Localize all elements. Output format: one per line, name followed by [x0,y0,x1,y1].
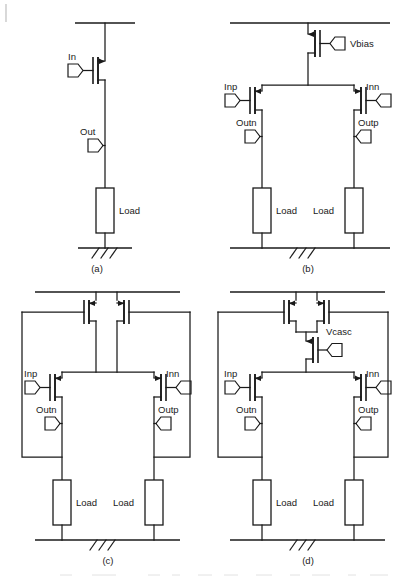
label-load-a: Load [119,205,140,216]
ground-hatch-3-a [110,248,117,258]
ground-hatch-3-c [108,540,115,550]
load-left-box-b [253,188,271,233]
panel-d-schematic: Vcasc Inp Inn Outn Outp [200,282,405,572]
load-left-box-c [53,480,71,525]
label-in-a: In [68,51,76,62]
label-out-a: Out [80,126,96,137]
ground-hatch-2-c [99,540,106,550]
pin-outn-d[interactable] [245,417,260,430]
label-load-right-d: Load [313,497,334,508]
label-inp-d: Inp [224,368,237,379]
pin-outn-b[interactable] [245,130,260,143]
pin-outn-c[interactable] [45,417,60,430]
caption-b: (b) [302,263,314,274]
pin-inp-b[interactable] [225,94,240,107]
label-load-left-c: Load [76,497,97,508]
label-outn-c: Outn [36,404,57,415]
ground-hatch-1-a [92,248,99,258]
scan-bottom-artifact [0,570,405,580]
ground-hatch-2-d [299,540,306,550]
pin-inp-c[interactable] [25,381,40,394]
panel-b-schematic: Vbias Inp Inn Outn [200,0,405,280]
label-outp-c: Outp [158,404,179,415]
pin-in-a[interactable] [68,64,83,77]
label-inn-b: Inn [366,81,379,92]
label-outp-b: Outp [358,117,379,128]
label-inp-b: Inp [224,81,237,92]
caption-a: (a) [91,263,103,274]
ground-hatch-2-b [299,248,306,258]
pin-inn-d[interactable] [376,381,391,394]
label-outn-b: Outn [236,117,257,128]
caption-d: (d) [302,555,314,566]
load-right-box-c [145,480,163,525]
label-load-right-b: Load [313,205,334,216]
pin-out-a[interactable] [88,139,103,152]
ground-hatch-3-d [308,540,315,550]
label-vbias-b: Vbias [350,38,374,49]
label-outn-d: Outn [236,404,257,415]
panel-a-schematic: In Out Load (a) [0,0,205,280]
mtail-source-arrow-b [308,32,314,38]
ground-hatch-1-b [290,248,297,258]
ground-hatch-3-b [308,248,315,258]
label-inn-d: Inn [366,368,379,379]
pin-inn-b[interactable] [376,94,391,107]
label-load-right-c: Load [113,497,134,508]
panel-c-schematic: Inp Inn Outn Outp Load Load [0,282,205,572]
pin-outp-d[interactable] [356,417,371,430]
ground-hatch-1-d [290,540,297,550]
mcasc-source-arrow-d [306,339,312,345]
ground-hatch-1-c [90,540,97,550]
caption-c: (c) [102,555,113,566]
load-left-box-a [96,188,114,233]
label-outp-d: Outp [358,404,379,415]
load-right-box-d [345,480,363,525]
m1-source-arrow-a [99,59,105,65]
pin-outp-b[interactable] [356,130,371,143]
load-left-box-d [253,480,271,525]
pin-vcasc-d[interactable] [327,344,342,357]
label-inn-c: Inn [166,368,179,379]
pin-outp-c[interactable] [156,417,171,430]
pin-inn-c[interactable] [176,381,191,394]
pin-vbias-b[interactable] [330,37,345,50]
ground-hatch-2-a [101,248,108,258]
label-vcasc-d: Vcasc [326,326,352,337]
pin-inp-d[interactable] [225,381,240,394]
load-right-box-b [345,188,363,233]
label-load-left-d: Load [276,497,297,508]
figure-container: In Out Load (a) Vbias [0,0,405,580]
label-inp-c: Inp [24,368,37,379]
label-load-left-b: Load [276,205,297,216]
